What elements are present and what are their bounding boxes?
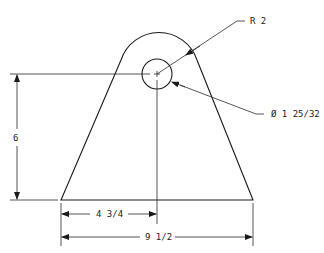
half-width-label: 4 3/4 xyxy=(96,209,123,219)
radius-leader-arrow xyxy=(186,46,200,55)
base-width-label: 9 1/2 xyxy=(145,232,172,242)
hole-leader xyxy=(180,85,264,114)
radius-label: R 2 xyxy=(250,16,266,26)
height-label: 6 xyxy=(13,133,18,143)
hole-diameter-label: Ø 1 25/32 xyxy=(271,109,320,119)
technical-drawing: 6 4 3/4 9 1/2 R 2 Ø 1 25/32 xyxy=(0,0,324,253)
hole-leader-arrow xyxy=(172,82,185,87)
